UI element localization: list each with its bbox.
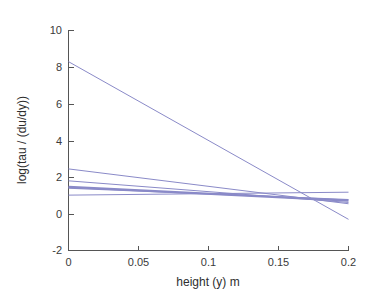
y-tick-label-10: 10 [50,24,62,36]
y-axis-title: log(tau / (du/dy)) [15,96,29,184]
figure-canvas: 10 8 6 4 2 0 -2 0 0.05 0.1 0.15 0.2 heig… [0,0,381,308]
x-tick-label-015: 0.15 [268,256,289,268]
y-tick-label-8: 8 [56,61,62,73]
y-tick-label-4: 4 [56,135,62,147]
x-tick-label-02: 0.2 [341,256,356,268]
y-tick-label-2: 2 [56,171,62,183]
x-tick-label-01: 0.1 [201,256,216,268]
line-chart: 10 8 6 4 2 0 -2 0 0.05 0.1 0.15 0.2 heig… [0,0,381,308]
y-tick-label-neg2: -2 [52,244,62,256]
x-tick-label-005: 0.05 [128,256,149,268]
chart-background [0,0,381,308]
x-tick-label-0: 0 [65,256,71,268]
y-tick-label-6: 6 [56,98,62,110]
y-tick-label-0: 0 [56,208,62,220]
x-axis-title: height (y) m [176,275,239,289]
